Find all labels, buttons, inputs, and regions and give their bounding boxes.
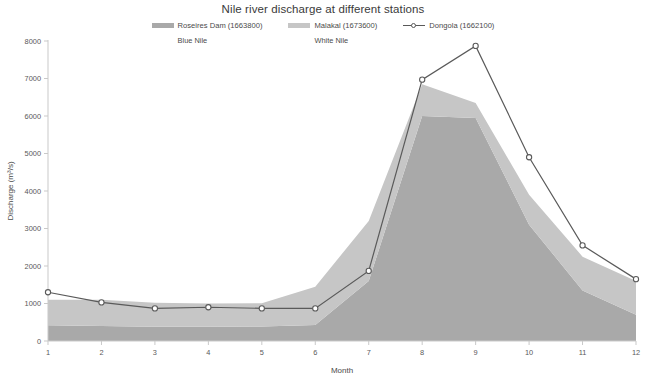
x-axis-tick-label: 12 (632, 348, 640, 357)
x-axis-tick-label: 2 (99, 348, 103, 357)
x-axis-tick-label: 5 (260, 348, 264, 357)
data-point-marker (99, 300, 104, 305)
y-axis-tick-label: 4000 (25, 187, 41, 196)
y-axis-tick-label: 5000 (25, 149, 41, 158)
x-axis-title: Month (331, 366, 353, 375)
y-axis-tick-label: 0 (37, 337, 41, 346)
data-point-marker (526, 155, 531, 160)
data-point-marker (580, 243, 585, 248)
x-axis-tick-label: 10 (525, 348, 533, 357)
data-point-marker (206, 305, 211, 310)
data-point-marker (366, 268, 371, 273)
x-axis-tick-label: 7 (367, 348, 371, 357)
chart-container: Nile river discharge at different statio… (0, 0, 646, 378)
x-axis-tick-label: 9 (474, 348, 478, 357)
y-axis-tick-label: 3000 (25, 224, 41, 233)
x-axis-tick-label: 11 (579, 348, 587, 357)
x-axis-tick-label: 4 (206, 348, 210, 357)
y-axis-tick-label: 8000 (25, 37, 41, 46)
x-axis-tick-label: 6 (313, 348, 317, 357)
data-point-marker (473, 43, 478, 48)
y-axis-tick-label: 1000 (25, 299, 41, 308)
x-axis-tick-label: 1 (46, 348, 50, 357)
y-axis-tick-label: 7000 (25, 74, 41, 83)
x-axis-tick-label: 3 (153, 348, 157, 357)
y-axis-tick-label: 6000 (25, 112, 41, 121)
plot-area: 0100020003000400050006000700080001234567… (0, 0, 646, 378)
chart-plot-svg: 0100020003000400050006000700080001234567… (0, 0, 646, 378)
data-point-marker (420, 77, 425, 82)
y-axis-tick-label: 2000 (25, 262, 41, 271)
data-point-marker (259, 306, 264, 311)
data-point-marker (45, 290, 50, 295)
data-point-marker (152, 306, 157, 311)
x-axis-tick-label: 8 (420, 348, 424, 357)
data-point-marker (313, 306, 318, 311)
data-point-marker (633, 277, 638, 282)
y-axis-title: Discharge (m³/s) (6, 161, 15, 220)
